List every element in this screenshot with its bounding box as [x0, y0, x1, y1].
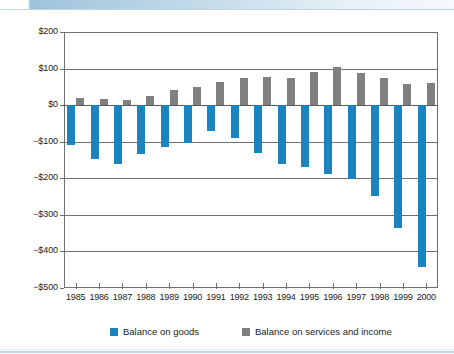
- bar-goods-2000: [418, 105, 426, 267]
- bar-services-1991: [216, 82, 224, 105]
- bar-goods-1992: [231, 105, 239, 138]
- bar-services-1989: [170, 90, 178, 105]
- x-tick-mark: [403, 283, 404, 289]
- y-tick-label: −$500: [6, 282, 58, 292]
- bar-goods-1994: [278, 105, 286, 164]
- x-tick-mark: [380, 283, 381, 289]
- bar-services-1988: [146, 96, 154, 105]
- y-tick-mark: [60, 288, 64, 289]
- x-tick-label-2000: 2000: [412, 292, 440, 302]
- bar-services-1994: [287, 78, 295, 105]
- bar-goods-1997: [348, 105, 356, 179]
- bar-goods-1989: [161, 105, 169, 147]
- y-tick-label: −$300: [6, 209, 58, 219]
- x-tick-mark: [263, 283, 264, 289]
- bar-goods-1987: [114, 105, 122, 164]
- bar-goods-1990: [184, 105, 192, 143]
- legend-swatch-services: [242, 328, 250, 336]
- chart-legend: Balance on goodsBalance on services and …: [0, 324, 454, 340]
- bottom-rule-light: [0, 349, 454, 350]
- bar-services-1990: [193, 87, 201, 105]
- bar-goods-1996: [324, 105, 332, 174]
- bar-services-1996: [333, 67, 341, 105]
- x-tick-mark: [216, 283, 217, 289]
- y-tick-label: $100: [6, 63, 58, 73]
- legend-swatch-goods: [110, 328, 118, 336]
- bar-services-1995: [310, 72, 318, 105]
- x-tick-mark: [309, 283, 310, 289]
- y-tick-label: −$400: [6, 245, 58, 255]
- x-tick-mark: [146, 283, 147, 289]
- x-tick-mark: [169, 283, 170, 289]
- x-tick-mark: [426, 283, 427, 289]
- bar-goods-1993: [254, 105, 262, 153]
- bars-layer: [64, 32, 438, 288]
- x-tick-mark: [99, 283, 100, 289]
- x-tick-mark: [122, 283, 123, 289]
- x-tick-mark: [333, 283, 334, 289]
- bar-services-1985: [76, 98, 84, 105]
- bar-services-1987: [123, 100, 131, 106]
- bar-services-1998: [380, 78, 388, 105]
- bar-services-1999: [403, 84, 411, 105]
- x-tick-mark: [286, 283, 287, 289]
- bar-goods-1988: [137, 105, 145, 154]
- x-tick-mark: [193, 283, 194, 289]
- y-tick-label: $0: [6, 99, 58, 109]
- y-tick-label: −$200: [6, 172, 58, 182]
- bottom-rule: [0, 351, 454, 353]
- bar-services-1986: [100, 99, 108, 105]
- bar-goods-1991: [207, 105, 215, 131]
- bar-goods-1986: [91, 105, 99, 159]
- legend-entry-services: Balance on services and income: [242, 326, 392, 337]
- legend-entry-goods: Balance on goods: [110, 326, 199, 337]
- x-tick-mark: [356, 283, 357, 289]
- bar-goods-1999: [394, 105, 402, 228]
- bar-services-1993: [263, 77, 271, 105]
- x-tick-mark: [76, 283, 77, 289]
- y-tick-label: −$100: [6, 136, 58, 146]
- bar-goods-1998: [371, 105, 379, 196]
- x-tick-mark: [239, 283, 240, 289]
- bar-services-2000: [427, 83, 435, 105]
- bar-services-1992: [240, 78, 248, 105]
- bar-goods-1985: [67, 105, 75, 145]
- chart-figure: $200$100$0−$100−$200−$300−$400−$500 1985…: [0, 0, 454, 354]
- legend-label: Balance on goods: [123, 326, 199, 337]
- title-band: [0, 0, 454, 10]
- y-tick-label: $200: [6, 26, 58, 36]
- bar-goods-1995: [301, 105, 309, 167]
- legend-label: Balance on services and income: [255, 326, 392, 337]
- bar-services-1997: [357, 73, 365, 106]
